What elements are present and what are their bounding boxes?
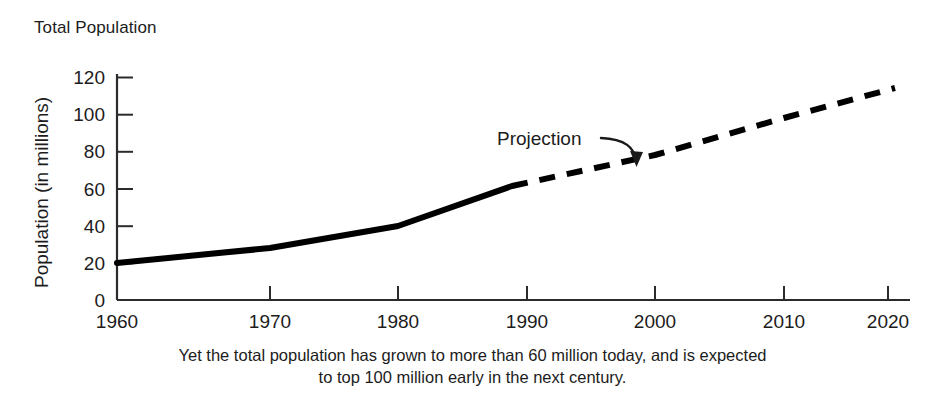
- x-tick-label-1980: 1980: [377, 311, 419, 332]
- y-tick-label-20: 20: [84, 253, 105, 274]
- x-tick-label-2010: 2010: [763, 311, 805, 332]
- projection-annotation-label: Projection: [497, 128, 582, 149]
- figure-caption-line-2: to top 100 million early in the next cen…: [90, 366, 855, 388]
- figure-caption-line-1: Yet the total population has grown to mo…: [90, 344, 855, 366]
- x-tick-label-1970: 1970: [249, 311, 291, 332]
- y-tick-label-0: 0: [94, 290, 105, 311]
- x-tick-label-1990: 1990: [506, 311, 548, 332]
- y-tick-label-100: 100: [73, 104, 105, 125]
- y-axis-title: Population (in millions): [31, 97, 52, 288]
- y-tick-label-120: 120: [73, 67, 105, 88]
- y-tick-label-80: 80: [84, 141, 105, 162]
- figure-caption: Yet the total population has grown to mo…: [0, 344, 945, 388]
- projection-arrow-curve: [601, 138, 636, 160]
- figure-root: Total Population Population (in millions…: [0, 0, 945, 408]
- y-tick-label-40: 40: [84, 216, 105, 237]
- x-tick-label-2000: 2000: [634, 311, 676, 332]
- x-tick-label-2020: 2020: [867, 311, 909, 332]
- y-tick-label-60: 60: [84, 179, 105, 200]
- historical-population-line: [117, 186, 512, 263]
- x-tick-label-1960: 1960: [96, 311, 138, 332]
